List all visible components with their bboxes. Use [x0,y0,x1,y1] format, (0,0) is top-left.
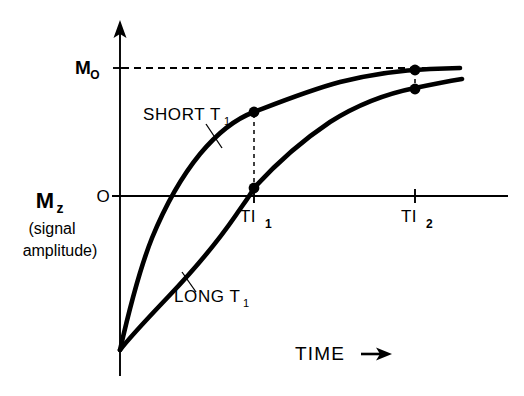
m0-axis-label: M O [75,57,100,82]
marker-short-t1-ti2 [410,65,421,76]
x-axis-label-text: TIME [295,343,345,364]
x-axis-label-group: TIME [295,343,392,364]
long-t1-annotation-subscript: 1 [243,297,249,309]
mz-label-subscript: z [57,200,64,216]
mz-caption-line-1: (signal [28,220,75,237]
time-arrow-icon [361,348,392,361]
long-t1-annotation-text: LONG T [174,287,241,306]
marker-long-t1-ti1 [249,183,260,194]
short-t1-annotation-subscript: 1 [224,115,230,127]
ti1-label-subscript: 1 [265,217,272,231]
ti2-label-main: TI [401,207,417,226]
ti1-label-main: TI [240,207,256,226]
m0-label-main: M [75,57,91,78]
y-zero-label: O [96,187,109,206]
short-t1-annotation: SHORT T 1 [143,105,230,127]
figure-root: M O M z (signal amplitude) O SHORT T 1 L… [0,0,524,396]
mz-axis-label: M z (signal amplitude) [23,188,98,259]
ti2-label-subscript: 2 [426,217,433,231]
long-t1-annotation: LONG T 1 [174,287,249,309]
x-tick-label-ti1: TI 1 [240,207,272,231]
mz-label-main: M [36,188,54,213]
x-tick-label-ti2: TI 2 [401,207,433,231]
t1-relaxation-plot: M O M z (signal amplitude) O SHORT T 1 L… [0,0,524,396]
m0-label-subscript: O [90,68,99,82]
short-t1-annotation-text: SHORT T [143,105,221,124]
marker-long-t1-ti2 [410,84,421,95]
mz-caption-line-2: amplitude) [23,242,98,259]
marker-short-t1-ti1 [249,107,260,118]
